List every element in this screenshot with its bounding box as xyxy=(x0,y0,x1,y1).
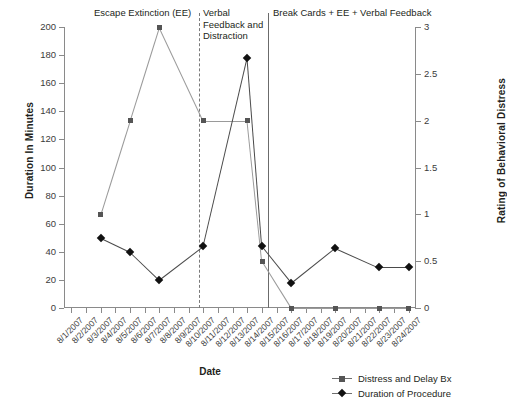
x-tick xyxy=(159,308,160,313)
series-line-segment xyxy=(203,121,247,122)
series-line-segment xyxy=(159,27,204,121)
x-tick xyxy=(130,308,131,313)
phase-label-escape-extinction: Escape Extinction (EE) xyxy=(94,7,191,19)
y-tick-label-right: 2 xyxy=(424,115,464,126)
y-tick-label-left: 60 xyxy=(16,218,56,229)
series-line-segment xyxy=(100,121,130,215)
y-tick-label-right: 0 xyxy=(424,302,464,313)
x-tick xyxy=(174,308,175,313)
data-point-marker xyxy=(377,306,382,311)
x-tick xyxy=(218,308,219,313)
y-tick-label-left: 20 xyxy=(16,274,56,285)
y-tick-right xyxy=(415,74,421,75)
y-tick-label-left: 200 xyxy=(16,21,56,32)
plot-area: 020406080100120140160180200 00.511.522.5… xyxy=(64,27,416,308)
y-tick-label-right: 3 xyxy=(424,21,464,32)
y-tick-left xyxy=(59,139,64,140)
series-line-segment xyxy=(291,248,336,284)
y-tick-left xyxy=(59,196,64,197)
y-tick-right xyxy=(415,121,421,122)
phase-label-break-cards: Break Cards + EE + Verbal Feedback xyxy=(273,7,431,19)
y-tick-right xyxy=(415,168,421,169)
y-tick-right xyxy=(415,214,421,215)
y-tick-label-left: 80 xyxy=(16,190,56,201)
series-line-segment xyxy=(159,246,204,281)
series-line-segment xyxy=(262,246,292,283)
y-axis-label-right: Rating of Behavioral Distress xyxy=(496,46,507,256)
x-tick xyxy=(101,308,102,313)
legend-item: Distress and Delay Bx xyxy=(332,371,451,386)
y-tick-left xyxy=(59,27,64,28)
data-point-marker xyxy=(243,54,251,62)
phase-separator-dashed xyxy=(199,13,200,308)
y-tick-label-right: 0.5 xyxy=(424,255,464,266)
series-line-segment xyxy=(130,252,160,281)
data-point-marker xyxy=(289,306,294,311)
diamond-marker-icon xyxy=(338,389,346,397)
y-tick-right xyxy=(415,308,421,309)
legend-line xyxy=(332,393,352,394)
legend-item: Duration of Procedure xyxy=(332,386,451,401)
series-line-segment xyxy=(291,308,335,309)
series-line-segment xyxy=(262,261,292,308)
y-tick-left xyxy=(59,308,64,309)
y-tick-label-left: 120 xyxy=(16,133,56,144)
y-tick-label-left: 0 xyxy=(16,302,56,313)
data-point-marker xyxy=(157,25,162,30)
y-tick-label-right: 2.5 xyxy=(424,68,464,79)
phase-label-verbal-feedback: Verbal Feedback and Distraction xyxy=(203,7,269,42)
data-point-marker xyxy=(260,259,265,264)
data-point-marker xyxy=(128,118,133,123)
x-tick xyxy=(145,308,146,313)
legend-label: Duration of Procedure xyxy=(358,388,451,399)
data-point-marker xyxy=(245,118,250,123)
legend-label: Distress and Delay Bx xyxy=(358,373,451,384)
y-axis-left-line xyxy=(64,27,65,308)
series-line-segment xyxy=(130,27,160,121)
y-tick-right xyxy=(415,261,421,262)
y-tick-left xyxy=(59,224,64,225)
data-point-marker xyxy=(201,118,206,123)
y-tick-label-right: 1 xyxy=(424,208,464,219)
y-tick-label-right: 1.5 xyxy=(424,162,464,173)
y-tick-left xyxy=(59,111,64,112)
y-tick-left xyxy=(59,252,64,253)
x-tick xyxy=(262,308,263,313)
data-point-marker xyxy=(333,306,338,311)
y-tick-label-left: 180 xyxy=(16,49,56,60)
data-point-marker xyxy=(375,263,383,271)
y-tick-right xyxy=(415,27,421,28)
y-tick-left xyxy=(59,168,64,169)
y-tick-label-left: 100 xyxy=(16,162,56,173)
phase-separator-solid xyxy=(268,13,269,308)
x-tick xyxy=(115,308,116,313)
x-tick xyxy=(203,308,204,313)
legend-line xyxy=(332,378,352,379)
x-tick xyxy=(71,308,72,313)
series-line-segment xyxy=(203,58,248,246)
chart-legend: Distress and Delay BxDuration of Procedu… xyxy=(332,371,451,401)
x-tick xyxy=(86,308,87,313)
x-tick xyxy=(189,308,190,313)
x-tick xyxy=(233,308,234,313)
y-tick-label-left: 160 xyxy=(16,77,56,88)
y-tick-label-left: 40 xyxy=(16,246,56,257)
y-tick-left xyxy=(59,83,64,84)
data-point-marker xyxy=(406,306,411,311)
series-line-segment xyxy=(335,248,379,269)
square-marker-icon xyxy=(339,376,345,382)
series-line-segment xyxy=(335,308,379,309)
y-tick-label-left: 140 xyxy=(16,105,56,116)
y-tick-left xyxy=(59,55,64,56)
series-line-segment xyxy=(379,308,408,309)
x-tick xyxy=(277,308,278,313)
x-tick xyxy=(247,308,248,313)
y-tick-left xyxy=(59,280,64,281)
data-point-marker xyxy=(98,212,103,217)
data-point-marker xyxy=(404,263,412,271)
